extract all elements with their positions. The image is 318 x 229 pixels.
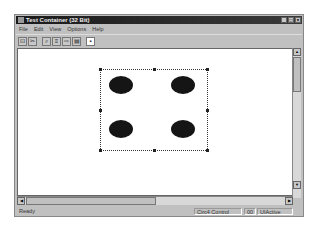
vertical-scroll-thumb[interactable] bbox=[293, 57, 301, 92]
status-state: UIActive bbox=[257, 208, 293, 215]
ellipse-bottom-right bbox=[171, 120, 195, 138]
menu-view[interactable]: View bbox=[49, 25, 61, 33]
resize-handle-sw[interactable] bbox=[99, 149, 102, 152]
toolbar: ⊡ ✂ ⌕ ≡ ⇨ ▤ ▪ bbox=[16, 34, 302, 47]
container-client-area[interactable] bbox=[17, 48, 293, 196]
test-container-window: Test Container (32 Bit) _ □ × File Edit … bbox=[14, 14, 304, 217]
scroll-up-arrow-icon[interactable]: ▲ bbox=[293, 48, 301, 56]
status-control-name: Circ4 Control bbox=[194, 208, 242, 215]
resize-handle-nw[interactable] bbox=[99, 68, 102, 71]
activex-control[interactable] bbox=[100, 69, 208, 151]
menu-help[interactable]: Help bbox=[92, 25, 103, 33]
resize-handle-e[interactable] bbox=[206, 109, 209, 112]
ellipse-top-left bbox=[109, 76, 133, 94]
menu-options[interactable]: Options bbox=[67, 25, 86, 33]
resize-handle-ne[interactable] bbox=[206, 68, 209, 71]
app-icon[interactable] bbox=[18, 17, 24, 23]
ambient-icon[interactable]: ▪ bbox=[86, 37, 95, 46]
invoke-methods-icon[interactable]: ≡ bbox=[52, 37, 61, 46]
window-title: Test Container (32 Bit) bbox=[26, 17, 90, 23]
menu-edit[interactable]: Edit bbox=[34, 25, 43, 33]
ellipse-top-right bbox=[171, 76, 195, 94]
horizontal-scrollbar[interactable]: ◀ ▶ bbox=[17, 196, 293, 205]
menu-bar: File Edit View Options Help bbox=[16, 25, 302, 33]
event-log-icon[interactable]: ▤ bbox=[72, 37, 81, 46]
insert-control-icon[interactable]: ⊡ bbox=[18, 37, 27, 46]
status-bar: Ready Circ4 Control 00 UIActive bbox=[16, 207, 302, 216]
delete-control-icon[interactable]: ✂ bbox=[28, 37, 37, 46]
resize-handle-w[interactable] bbox=[99, 109, 102, 112]
macro-icon[interactable]: ⇨ bbox=[62, 37, 71, 46]
scroll-right-arrow-icon[interactable]: ▶ bbox=[285, 197, 293, 205]
resize-handle-se[interactable] bbox=[206, 149, 209, 152]
vertical-scrollbar[interactable]: ▲ ▼ bbox=[292, 48, 301, 198]
status-code: 00 bbox=[244, 208, 256, 215]
close-button[interactable]: × bbox=[295, 17, 301, 23]
maximize-button[interactable]: □ bbox=[288, 17, 294, 23]
status-message: Ready bbox=[17, 208, 193, 215]
scroll-left-arrow-icon[interactable]: ◀ bbox=[17, 197, 25, 205]
properties-icon[interactable]: ⌕ bbox=[42, 37, 51, 46]
scroll-down-arrow-icon[interactable]: ▼ bbox=[293, 181, 301, 189]
resize-handle-s[interactable] bbox=[153, 149, 156, 152]
resize-handle-n[interactable] bbox=[153, 68, 156, 71]
menu-file[interactable]: File bbox=[19, 25, 28, 33]
minimize-button[interactable]: _ bbox=[281, 17, 287, 23]
ellipse-bottom-left bbox=[109, 120, 133, 138]
horizontal-scroll-thumb[interactable] bbox=[26, 197, 156, 205]
title-bar[interactable]: Test Container (32 Bit) _ □ × bbox=[16, 16, 302, 24]
